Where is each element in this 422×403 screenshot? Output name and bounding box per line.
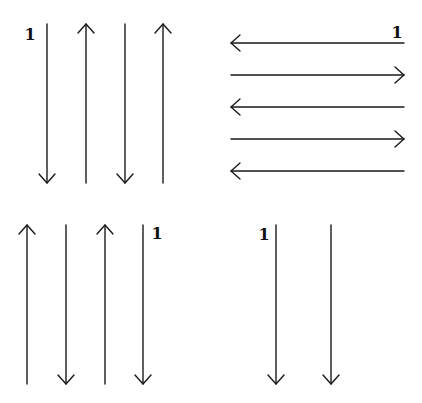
arrow-up-icon [97,225,113,384]
panel-bottom-left: 1 [19,224,163,384]
arrow-down-icon [135,225,151,384]
start-label: 1 [151,224,162,243]
arrow-up-icon [78,24,94,183]
arrow-up-icon [155,24,171,183]
arrow-right-icon [231,131,404,147]
arrow-down-icon [268,225,284,384]
arrow-down-icon [58,225,74,384]
arrow-down-icon [39,24,55,183]
panel-bottom-right: 1 [258,225,339,384]
arrow-left-icon [231,35,404,51]
panel-top-right: 1 [231,23,404,179]
panel-top-left: 1 [24,24,171,183]
arrow-left-icon [231,99,404,115]
start-label: 1 [24,25,35,44]
arrow-diagram-canvas: 1 1 1 1 [0,0,422,403]
arrow-up-icon [19,225,35,384]
arrow-right-icon [231,67,404,83]
arrow-left-icon [231,163,404,179]
start-label: 1 [391,23,402,42]
arrow-down-icon [117,24,133,183]
start-label: 1 [258,225,269,244]
arrow-down-icon [323,225,339,384]
